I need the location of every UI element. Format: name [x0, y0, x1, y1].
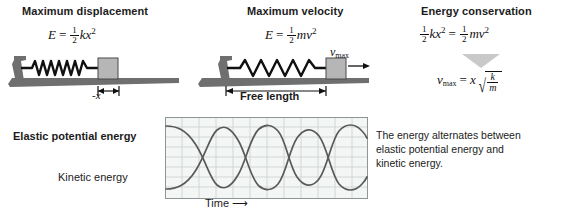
exponent-two: 2 [485, 25, 490, 35]
exponent-two: 2 [91, 26, 96, 36]
dimension-label-minus-x: -x [92, 89, 101, 101]
equation-vmax: vmax=x√km [437, 71, 502, 95]
exponent-two: 2 [312, 26, 317, 36]
panel-title-energy-conservation: Energy conservation [421, 5, 532, 17]
velocity-max-label: vmax [330, 45, 349, 60]
symbol-x: x [470, 72, 476, 87]
symbol-equals: = [59, 27, 66, 42]
energy-oscillation-chart [165, 117, 368, 199]
note-line-2: elastic potential energy and [376, 142, 566, 156]
fraction-k-over-m: km [487, 72, 498, 93]
equation-elastic-energy: E=12kx2 [48, 26, 96, 46]
chart-legend-kinetic-energy: Kinetic energy [58, 171, 128, 183]
chart-x-axis-label: Time ⟶ [205, 197, 247, 210]
equation-kinetic-energy: E=12mv2 [265, 26, 316, 46]
exponent-two: 2 [441, 25, 446, 35]
time-text: Time [205, 197, 229, 209]
explanatory-note: The energy alternates between elastic po… [376, 128, 566, 170]
time-arrow-icon: ⟶ [232, 197, 247, 209]
fraction-one-half-2: 12 [460, 25, 469, 44]
symbol-m: m [297, 27, 306, 42]
fraction-one-half: 12 [420, 25, 429, 44]
symbol-E: E [265, 27, 273, 42]
chart-plot-area [166, 118, 368, 199]
note-line-1: The energy alternates between [376, 128, 566, 142]
symbol-equals: = [460, 72, 467, 87]
velocity-arrow-icon [348, 63, 370, 69]
symbol-equals: = [449, 26, 456, 41]
note-line-3: kinetic energy. [376, 156, 566, 170]
panel-title-maximum-displacement: Maximum displacement [22, 5, 148, 17]
equation-energy-conservation: 12kx2=12mv2 [419, 25, 489, 45]
symbol-m: m [469, 26, 478, 41]
fraction-one-half: 12 [287, 26, 296, 45]
fraction-one-half: 12 [70, 26, 79, 45]
panel-title-maximum-velocity: Maximum velocity [247, 5, 343, 17]
radicand: km [485, 71, 502, 93]
velocity-subscript: max [335, 51, 349, 60]
chart-svg [165, 117, 368, 199]
dimension-label-free-length: Free length [240, 90, 299, 102]
radical-sign: √ [478, 76, 486, 95]
symbol-equals: = [276, 27, 283, 42]
symbol-E: E [48, 27, 56, 42]
figure-root: Maximum displacement Maximum velocity En… [0, 0, 567, 216]
chart-legend-elastic-potential-energy: Elastic potential energy [13, 130, 136, 142]
subscript-max: max [443, 79, 457, 88]
square-root-icon: √km [477, 71, 503, 95]
